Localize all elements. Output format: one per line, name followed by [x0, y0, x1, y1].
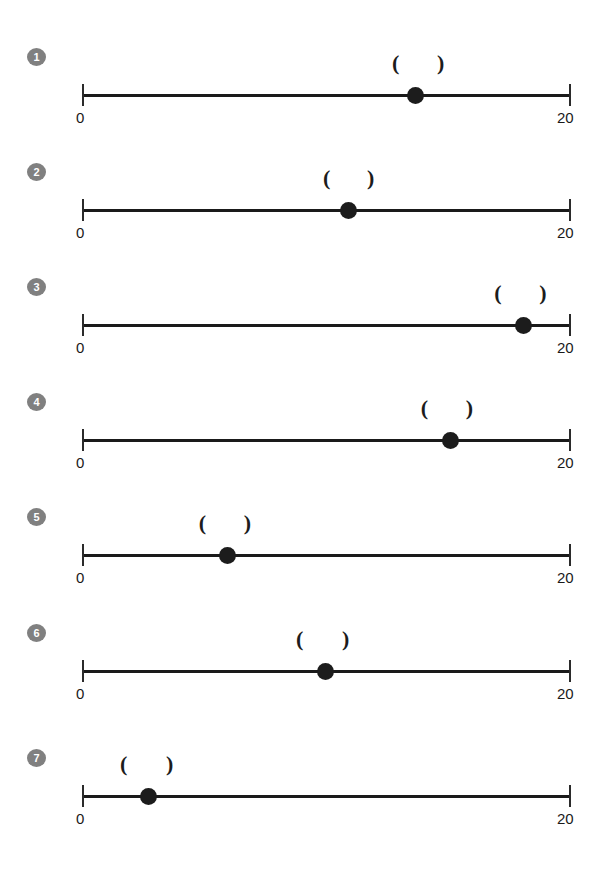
number-line-sheet: 1020()2020()3020()4020()5020()6020()7020…: [0, 0, 606, 869]
interval-close-paren: ): [367, 167, 374, 189]
interval-close-paren: ): [437, 52, 444, 74]
number-line-row: 2020(): [0, 163, 606, 278]
axis-tick-min: [82, 199, 84, 221]
axis-tick-max: [569, 199, 571, 221]
interval-open-paren: (: [296, 628, 303, 650]
interval-close-paren: ): [342, 628, 349, 650]
row-number-badge: 2: [27, 163, 46, 181]
number-line-row: 4020(): [0, 393, 606, 508]
axis-tick-max: [569, 429, 571, 451]
axis-label-max: 20: [557, 454, 574, 471]
axis-tick-max: [569, 544, 571, 566]
axis-label-max: 20: [557, 109, 574, 126]
axis-line: [82, 324, 571, 327]
axis-label-min: 0: [76, 454, 84, 471]
row-number-badge: 5: [27, 508, 46, 526]
interval-close-paren: ): [466, 397, 473, 419]
interval-open-paren: (: [494, 282, 501, 304]
estimate-point-marker: [515, 317, 532, 334]
number-line-row: 3020(): [0, 278, 606, 393]
interval-open-paren: (: [392, 52, 399, 74]
axis-tick-min: [82, 84, 84, 106]
estimate-point-marker: [317, 663, 334, 680]
interval-close-paren: ): [539, 282, 546, 304]
estimate-point-marker: [219, 547, 236, 564]
axis-label-min: 0: [76, 109, 84, 126]
estimate-point-marker: [340, 202, 357, 219]
axis-tick-min: [82, 314, 84, 336]
axis-label-max: 20: [557, 685, 574, 702]
axis-tick-max: [569, 660, 571, 682]
axis-tick-min: [82, 544, 84, 566]
axis-label-min: 0: [76, 569, 84, 586]
interval-open-paren: (: [199, 512, 206, 534]
axis-line: [82, 439, 571, 442]
number-line-row: 1020(): [0, 48, 606, 163]
axis-label-max: 20: [557, 569, 574, 586]
axis-tick-min: [82, 785, 84, 807]
row-number-badge: 1: [27, 48, 46, 66]
interval-open-paren: (: [421, 397, 428, 419]
axis-label-max: 20: [557, 810, 574, 827]
axis-line: [82, 94, 571, 97]
axis-label-max: 20: [557, 224, 574, 241]
number-line-row: 7020(): [0, 749, 606, 864]
axis-label-min: 0: [76, 224, 84, 241]
interval-close-paren: ): [244, 512, 251, 534]
axis-tick-min: [82, 429, 84, 451]
axis-label-max: 20: [557, 339, 574, 356]
estimate-point-marker: [442, 432, 459, 449]
axis-label-min: 0: [76, 810, 84, 827]
axis-label-min: 0: [76, 685, 84, 702]
interval-open-paren: (: [120, 753, 127, 775]
axis-tick-max: [569, 785, 571, 807]
axis-line: [82, 554, 571, 557]
row-number-badge: 4: [27, 393, 46, 411]
estimate-point-marker: [140, 788, 157, 805]
row-number-badge: 7: [27, 749, 46, 767]
axis-label-min: 0: [76, 339, 84, 356]
axis-line: [82, 209, 571, 212]
interval-close-paren: ): [166, 753, 173, 775]
estimate-point-marker: [407, 87, 424, 104]
number-line-row: 6020(): [0, 624, 606, 739]
interval-open-paren: (: [323, 167, 330, 189]
number-line-row: 5020(): [0, 508, 606, 623]
axis-tick-min: [82, 660, 84, 682]
axis-tick-max: [569, 84, 571, 106]
row-number-badge: 6: [27, 624, 46, 642]
axis-tick-max: [569, 314, 571, 336]
row-number-badge: 3: [27, 278, 46, 296]
